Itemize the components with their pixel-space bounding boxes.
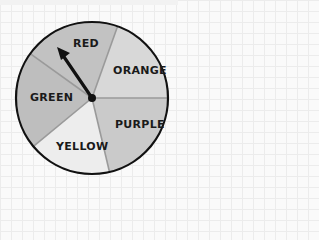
spinner-hub <box>88 94 96 102</box>
spinner-wheel[interactable]: RED ORANGE PURPLE YELLOW GREEN <box>0 0 178 194</box>
label-green: GREEN <box>30 91 73 104</box>
label-purple: PURPLE <box>115 118 165 131</box>
label-yellow: YELLOW <box>55 140 108 153</box>
label-red: RED <box>73 37 99 50</box>
label-orange: ORANGE <box>113 64 167 77</box>
